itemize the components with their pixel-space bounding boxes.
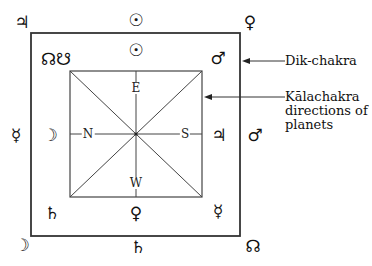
direction-north: N bbox=[82, 128, 95, 140]
mars-icon: ♂ bbox=[247, 127, 262, 144]
rahu-ketu-icon: ☊☋ bbox=[41, 51, 71, 68]
sun-icon: ☉ bbox=[128, 42, 143, 59]
saturn-icon: ♄ bbox=[44, 205, 59, 222]
saturn-icon: ♄ bbox=[130, 239, 145, 256]
arrowhead-icon bbox=[242, 58, 250, 64]
mercury-icon: ☿ bbox=[11, 127, 21, 144]
sun-icon: ☉ bbox=[128, 12, 143, 29]
moon-icon: ☽ bbox=[42, 127, 57, 144]
jupiter-icon: ♃ bbox=[14, 14, 29, 31]
mercury-icon: ☿ bbox=[213, 203, 223, 220]
kalachakra-label-line3: planets bbox=[285, 118, 368, 132]
mars-icon: ♂ bbox=[210, 50, 225, 67]
dik-chakra-label: Dik-chakra bbox=[285, 54, 357, 68]
jupiter-icon: ♃ bbox=[211, 127, 226, 144]
kalachakra-label: Kālachakra directions of planets bbox=[285, 90, 368, 132]
direction-south: S bbox=[180, 128, 190, 140]
arrowhead-icon bbox=[204, 94, 212, 100]
venus-icon: ♀ bbox=[244, 14, 256, 31]
direction-west: W bbox=[129, 177, 143, 189]
kalachakra-label-line1: Kālachakra bbox=[285, 90, 368, 104]
kalachakra-label-line2: directions of bbox=[285, 104, 368, 118]
center-point bbox=[134, 132, 137, 135]
venus-icon: ♀ bbox=[130, 205, 142, 222]
rahu-icon: ☊ bbox=[245, 238, 260, 255]
direction-east: E bbox=[131, 82, 142, 94]
moon-icon: ☽ bbox=[14, 237, 29, 254]
